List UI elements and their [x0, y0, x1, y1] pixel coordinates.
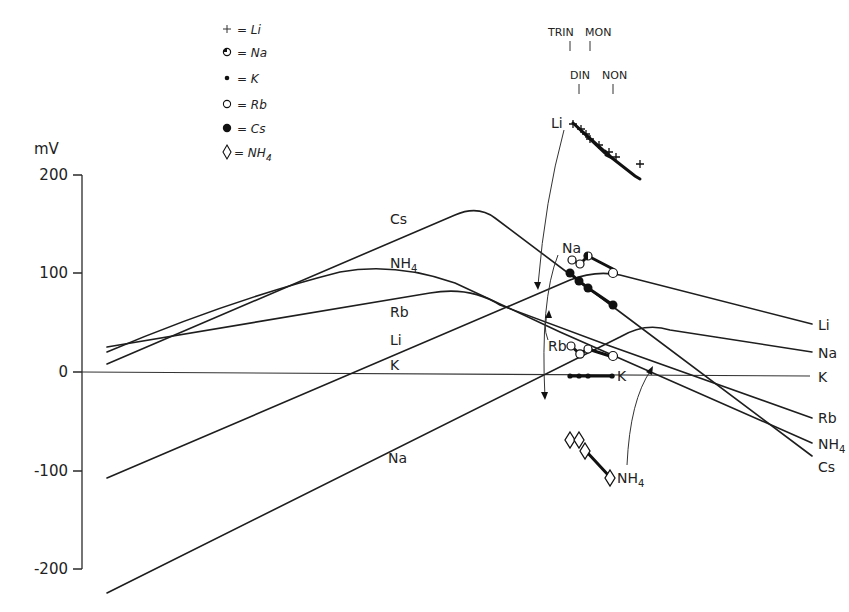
svg-text:Li: Li	[551, 115, 563, 131]
diamond-marker-icon	[223, 145, 231, 159]
ionophore-markers: TRIN MON DIN NON	[547, 26, 627, 94]
svg-text:K: K	[818, 369, 828, 385]
svg-text:K: K	[617, 368, 627, 384]
svg-text:Cs: Cs	[818, 459, 835, 475]
svg-text:TRIN: TRIN	[547, 26, 574, 39]
curves	[107, 211, 812, 593]
curve-labels: Cs NH4 Rb Li K Na	[388, 211, 417, 466]
svg-text:Rb: Rb	[818, 410, 837, 426]
points-li: Li	[534, 115, 644, 290]
points-k: K	[567, 368, 627, 384]
tick-neg100: -100	[34, 462, 68, 480]
svg-text:MON: MON	[585, 26, 611, 39]
curve-na	[107, 327, 812, 593]
open-circle-marker-icon	[223, 100, 230, 107]
dot-marker-icon	[225, 76, 230, 81]
filled-circle-marker-icon	[223, 124, 231, 132]
svg-text:Na: Na	[818, 345, 837, 361]
plus-marker-icon	[223, 25, 231, 33]
tick-200: 200	[39, 166, 68, 184]
legend-na: = Na	[223, 46, 267, 60]
svg-text:NON: NON	[602, 69, 627, 82]
diamond-marker-icon	[565, 432, 615, 486]
svg-text:Rb: Rb	[548, 338, 567, 354]
svg-text:Na: Na	[388, 450, 407, 466]
svg-text:NH4: NH4	[818, 436, 845, 455]
legend-rb: = Rb	[223, 98, 267, 112]
svg-text:Na: Na	[562, 240, 581, 256]
right-labels: Li Na K Rb NH4 Cs	[818, 317, 845, 475]
svg-text:K: K	[390, 357, 400, 373]
svg-text:= Cs: = Cs	[237, 122, 266, 136]
svg-text:DIN: DIN	[570, 69, 590, 82]
svg-text:= Li: = Li	[237, 23, 262, 37]
curve-cs	[107, 211, 812, 456]
selectivity-chart: = Li = Na = K = Rb = Cs = NH4 TRIN MON	[0, 0, 849, 612]
svg-text:= NH4: = NH4	[234, 146, 272, 163]
svg-text:NH4: NH4	[617, 470, 644, 489]
tick-100: 100	[39, 264, 68, 282]
tick-0: 0	[58, 363, 68, 381]
arrow-nh4	[627, 370, 651, 465]
tick-neg200: -200	[34, 560, 68, 578]
legend-li: = Li	[223, 23, 262, 37]
svg-text:Rb: Rb	[390, 304, 409, 320]
svg-text:Li: Li	[390, 332, 402, 348]
legend-nh4: = NH4	[223, 145, 272, 163]
legend: = Li = Na = K = Rb = Cs = NH4	[223, 23, 272, 163]
svg-text:mV: mV	[34, 140, 60, 158]
svg-text:= Rb: = Rb	[237, 98, 267, 112]
legend-cs: = Cs	[223, 122, 266, 136]
svg-text:Li: Li	[818, 317, 830, 333]
svg-text:= Na: = Na	[237, 46, 267, 60]
points-nh4: NH4	[565, 366, 653, 489]
arrow-li	[538, 130, 564, 285]
svg-text:Cs: Cs	[390, 211, 407, 227]
legend-k: = K	[225, 72, 260, 86]
svg-text:= K: = K	[237, 72, 260, 86]
plus-marker-icon	[569, 120, 644, 168]
y-axis: mV 200 100 0 -100 -200	[34, 140, 82, 578]
